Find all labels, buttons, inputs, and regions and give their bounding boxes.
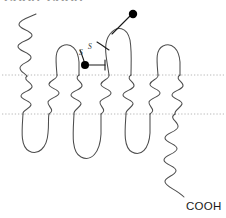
- cooh-terminus-label: COOH: [186, 200, 222, 212]
- c-terminal-tail: [164, 114, 184, 197]
- n-terminal-tail: [18, 14, 36, 76]
- tm-helix-6: [149, 75, 160, 114]
- intracellular-loop-1: [22, 114, 49, 152]
- extracellular-loop-2: [106, 28, 132, 75]
- tm-helix-1: [21, 76, 32, 114]
- intracellular-loop-3: [125, 114, 150, 153]
- disulfide-label-left: S: [79, 48, 83, 57]
- tm-helix-2: [48, 75, 59, 114]
- site-dot-lower: [81, 61, 89, 69]
- topology-diagram-svg: S S: [0, 0, 226, 218]
- tm-helix-4: [100, 75, 111, 114]
- tm-helix-3: [71, 75, 82, 114]
- disulfide-label-right: S: [88, 42, 92, 51]
- tm-helix-5: [123, 75, 134, 114]
- intracellular-loop-2: [73, 114, 101, 158]
- extracellular-loop-1: [56, 45, 79, 75]
- site-dot-upper: [129, 10, 137, 18]
- upper-site-bond: [112, 16, 130, 34]
- protein-topology-figure: COOH, COOH: [0, 0, 226, 218]
- extracellular-loop-3: [157, 45, 180, 75]
- disulfide-bond-right-arm: [97, 42, 109, 50]
- tm-helix-7: [172, 75, 183, 114]
